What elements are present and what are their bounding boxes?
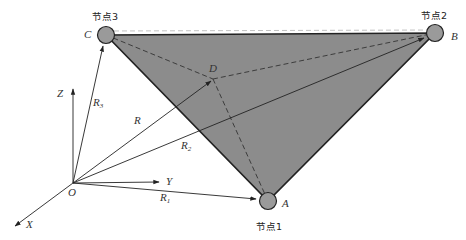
vector-r3 xyxy=(73,46,103,183)
node-c-label: C xyxy=(84,28,92,40)
coordinate-axes xyxy=(15,89,159,226)
triangle-element-diagram: 节点1 节点2 节点3 A B C D O Z Y X R R1 R2 R3 xyxy=(0,0,466,240)
y-axis-label: Y xyxy=(166,175,174,187)
x-axis xyxy=(15,183,73,226)
node-b-label: B xyxy=(451,30,458,42)
vector-r1-label: R1 xyxy=(159,191,170,205)
point-d-label: D xyxy=(208,62,217,74)
node-a xyxy=(260,193,277,210)
x-axis-label: X xyxy=(25,218,34,230)
vector-r3-label: R3 xyxy=(92,96,104,110)
z-axis-label: Z xyxy=(57,87,64,99)
origin-label: O xyxy=(68,186,76,198)
y-axis xyxy=(73,182,159,183)
node-c xyxy=(98,27,115,44)
vector-r-label: R xyxy=(133,114,141,126)
node-b xyxy=(427,25,444,42)
node-a-caption: 节点1 xyxy=(256,221,282,232)
vector-r2-label: R2 xyxy=(180,139,192,153)
node-c-caption: 节点3 xyxy=(92,11,118,22)
node-b-caption: 节点2 xyxy=(421,10,447,21)
node-a-label: A xyxy=(281,197,289,209)
triangle-face xyxy=(106,33,435,201)
